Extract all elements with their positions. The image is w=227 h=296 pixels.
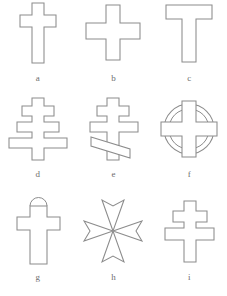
- figure-label-d: d: [36, 170, 41, 179]
- maltese-cross-icon: [76, 194, 152, 268]
- figure-label-a: a: [36, 74, 40, 83]
- figure-sheet: a b c: [0, 0, 227, 296]
- patriarchal-cross-icon: [151, 194, 227, 268]
- arched-top-cross-icon: [0, 194, 76, 268]
- celtic-cross-icon: [151, 94, 227, 164]
- greek-cross-icon: [76, 0, 152, 66]
- tau-cross-icon: [151, 0, 227, 66]
- figure-label-e: e: [111, 170, 115, 179]
- figure-item-latin-cross: a: [0, 0, 76, 94]
- figure-item-greek-cross: b: [76, 0, 152, 94]
- cross-figure-grid: a b c: [0, 0, 227, 296]
- figure-item-patriarchal-cross: i: [151, 194, 227, 296]
- figure-item-russian-orthodox-cross: e: [76, 94, 152, 194]
- figure-item-tau-cross: c: [151, 0, 227, 94]
- figure-label-f: f: [188, 170, 191, 179]
- figure-item-celtic-cross: f: [151, 94, 227, 194]
- papal-cross-icon: [0, 94, 76, 164]
- figure-item-arched-top-cross: g: [0, 194, 76, 296]
- figure-label-b: b: [111, 74, 116, 83]
- figure-item-papal-cross: d: [0, 94, 76, 194]
- figure-label-h: h: [111, 273, 116, 282]
- russian-orthodox-cross-icon: [76, 94, 152, 164]
- latin-cross-icon: [0, 0, 76, 66]
- figure-label-c: c: [187, 74, 191, 83]
- figure-label-i: i: [188, 273, 191, 282]
- figure-item-maltese-cross: h: [76, 194, 152, 296]
- figure-label-g: g: [36, 273, 41, 282]
